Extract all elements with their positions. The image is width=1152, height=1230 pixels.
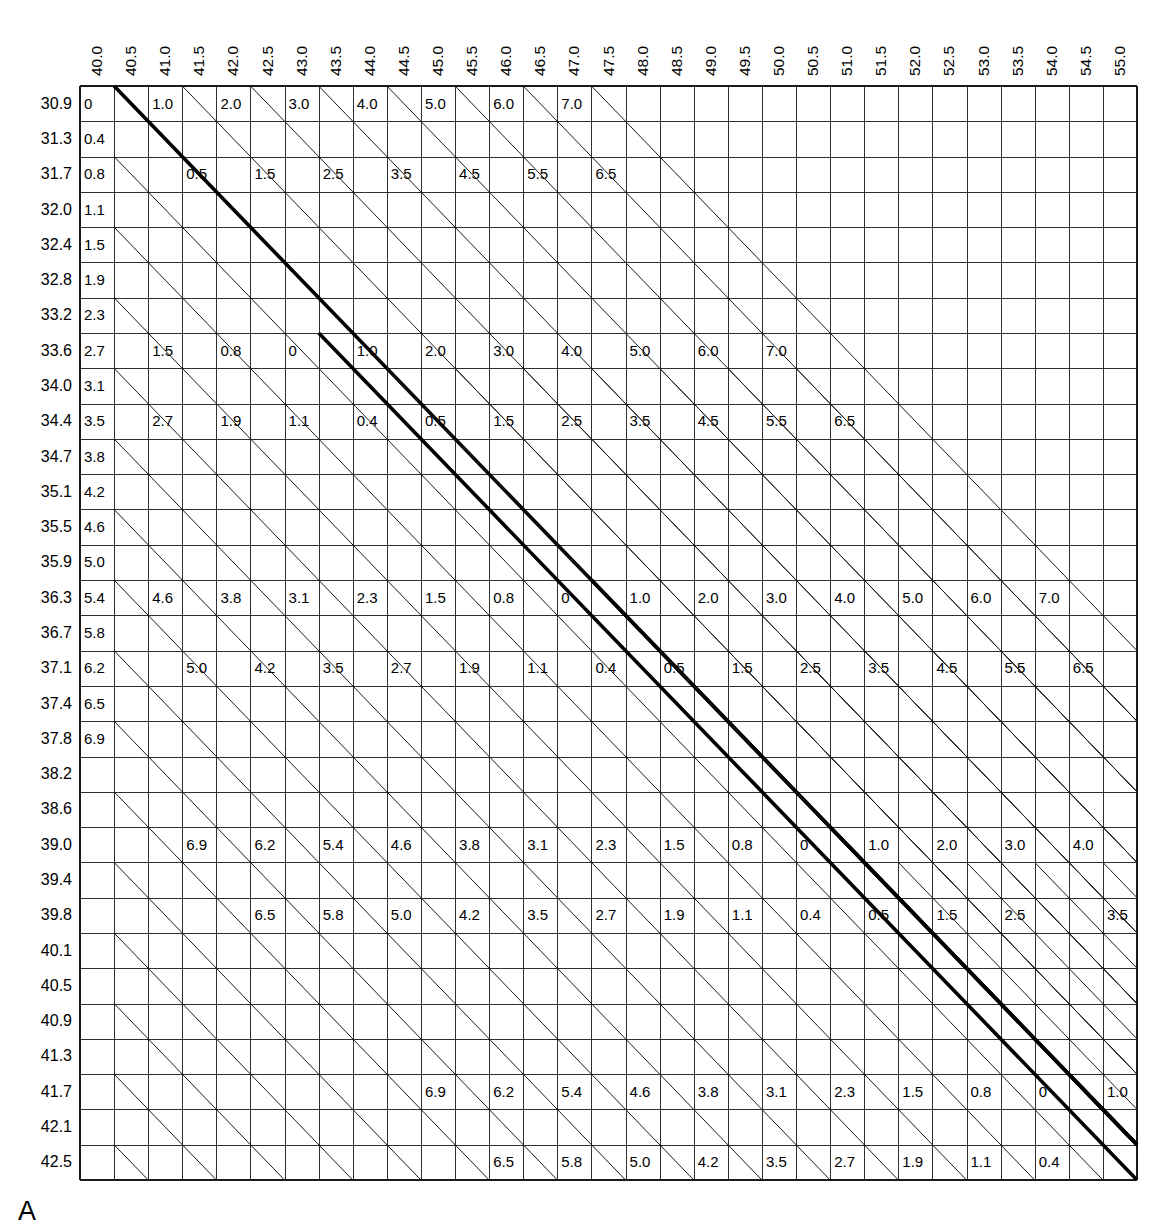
cell-value: 0.8: [84, 166, 105, 181]
column-header-40-0: 40.0: [88, 4, 106, 76]
cell-value: 3.0: [1005, 837, 1026, 852]
cell-value: 3.1: [84, 378, 105, 393]
cell-value: 0.8: [220, 343, 241, 358]
cell-value: 3.5: [84, 413, 105, 428]
cell-value: 6.0: [493, 96, 514, 111]
column-header-49-0: 49.0: [702, 4, 720, 76]
cell-value: 0.8: [971, 1084, 992, 1099]
column-header-55-0: 55.0: [1111, 4, 1129, 76]
cell-value: 1.9: [902, 1154, 923, 1169]
diagonal-line: [114, 227, 1035, 1180]
cell-value: 1.1: [732, 907, 753, 922]
cell-value: 1.5: [84, 237, 105, 252]
cell-value: 6.5: [493, 1154, 514, 1169]
column-header-43-0: 43.0: [293, 4, 311, 76]
cell-value: 5.4: [323, 837, 344, 852]
cell-value: 2.5: [323, 166, 344, 181]
row-header-38-6: 38.6: [10, 800, 72, 818]
cell-value: 5.4: [84, 590, 105, 605]
column-header-44-5: 44.5: [395, 4, 413, 76]
cell-value: 5.0: [425, 96, 446, 111]
row-header-32-8: 32.8: [10, 271, 72, 289]
cell-value: 3.1: [527, 837, 548, 852]
cell-value: 5.5: [1005, 660, 1026, 675]
column-header-45-0: 45.0: [429, 4, 447, 76]
column-header-41-5: 41.5: [190, 4, 208, 76]
cell-value: 1.9: [664, 907, 685, 922]
cell-value: 6.5: [84, 696, 105, 711]
row-header-38-2: 38.2: [10, 765, 72, 783]
cell-value: 1.1: [84, 202, 105, 217]
cell-value: 6.9: [425, 1084, 446, 1099]
diagonal-line: [114, 792, 489, 1180]
cell-value: 3.0: [493, 343, 514, 358]
column-header-43-5: 43.5: [327, 4, 345, 76]
cell-value: 0: [1039, 1084, 1047, 1099]
cell-value: 7.0: [766, 343, 787, 358]
column-header-41-0: 41.0: [156, 4, 174, 76]
cell-value: 2.7: [152, 413, 173, 428]
row-header-41-3: 41.3: [10, 1047, 72, 1065]
grid-lines: [76, 82, 1141, 1184]
column-header-53-5: 53.5: [1009, 4, 1027, 76]
row-header-35-1: 35.1: [10, 483, 72, 501]
cell-value: 3.8: [698, 1084, 719, 1099]
cell-value: 1.5: [425, 590, 446, 605]
column-header-54-5: 54.5: [1077, 4, 1095, 76]
cell-value: 5.8: [84, 625, 105, 640]
column-header-53-0: 53.0: [975, 4, 993, 76]
cell-value: 0.4: [84, 131, 105, 146]
cell-value: 2.5: [1005, 907, 1026, 922]
cell-value: 1.0: [868, 837, 889, 852]
cell-value: 1.5: [936, 907, 957, 922]
cell-value: 1.5: [732, 660, 753, 675]
cell-value: 4.6: [391, 837, 412, 852]
diagonal-line: [114, 298, 966, 1180]
row-header-37-8: 37.8: [10, 730, 72, 748]
cell-value: 4.6: [152, 590, 173, 605]
cell-value: 3.8: [459, 837, 480, 852]
cell-value: 1.9: [220, 413, 241, 428]
cell-value: 3.5: [868, 660, 889, 675]
cell-value: 0.4: [595, 660, 616, 675]
column-header-42-0: 42.0: [224, 4, 242, 76]
row-header-31-7: 31.7: [10, 165, 72, 183]
cell-value: 5.5: [527, 166, 548, 181]
row-header-37-1: 37.1: [10, 659, 72, 677]
cell-value: 7.0: [1039, 590, 1060, 605]
cell-value: 0: [561, 590, 569, 605]
cell-value: 3.5: [323, 660, 344, 675]
cell-value: 0.8: [732, 837, 753, 852]
column-header-51-0: 51.0: [838, 4, 856, 76]
cell-value: 5.0: [391, 907, 412, 922]
cell-value: 3.5: [527, 907, 548, 922]
cell-value: 1.5: [664, 837, 685, 852]
cell-value: 0.5: [186, 166, 207, 181]
column-header-47-0: 47.0: [565, 4, 583, 76]
cell-value: 2.3: [84, 307, 105, 322]
column-header-51-5: 51.5: [872, 4, 890, 76]
cell-value: 0: [84, 96, 92, 111]
cell-value: 3.1: [766, 1084, 787, 1099]
column-header-47-5: 47.5: [600, 4, 618, 76]
row-header-34-0: 34.0: [10, 377, 72, 395]
cell-value: 6.0: [971, 590, 992, 605]
row-header-40-5: 40.5: [10, 977, 72, 995]
row-header-35-9: 35.9: [10, 553, 72, 571]
cell-value: 3.5: [391, 166, 412, 181]
row-header-41-7: 41.7: [10, 1083, 72, 1101]
row-header-33-6: 33.6: [10, 342, 72, 360]
cell-value: 6.2: [493, 1084, 514, 1099]
column-header-49-5: 49.5: [736, 4, 754, 76]
column-header-52-5: 52.5: [940, 4, 958, 76]
diagonal-line: [898, 862, 1137, 1109]
cell-value: 6.5: [595, 166, 616, 181]
cell-value: 0.5: [425, 413, 446, 428]
row-header-39-8: 39.8: [10, 906, 72, 924]
cell-value: 0: [289, 343, 297, 358]
cell-value: 1.5: [254, 166, 275, 181]
cell-value: 0.8: [493, 590, 514, 605]
row-header-36-3: 36.3: [10, 589, 72, 607]
cell-value: 1.0: [152, 96, 173, 111]
column-header-54-0: 54.0: [1043, 4, 1061, 76]
